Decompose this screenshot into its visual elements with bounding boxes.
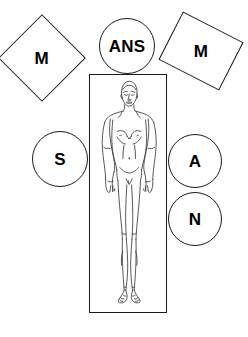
token-s[interactable]: S [32, 131, 88, 187]
token-a[interactable]: A [168, 134, 222, 188]
token-m-left-label: M [35, 50, 49, 67]
diagram-canvas: M M ANS S A N [0, 0, 248, 337]
token-ans-label: ANS [109, 38, 146, 55]
token-m-right-label: M [194, 43, 208, 60]
token-m-left[interactable]: M [0, 14, 86, 102]
token-a-label: A [189, 153, 201, 170]
human-figure-icon [90, 75, 167, 313]
token-n[interactable]: N [168, 192, 222, 246]
token-n-label: N [189, 211, 201, 228]
token-m-right[interactable]: M [158, 12, 243, 91]
token-s-label: S [54, 151, 66, 168]
token-ans[interactable]: ANS [99, 18, 155, 74]
body-frame-rectangle [89, 74, 167, 313]
